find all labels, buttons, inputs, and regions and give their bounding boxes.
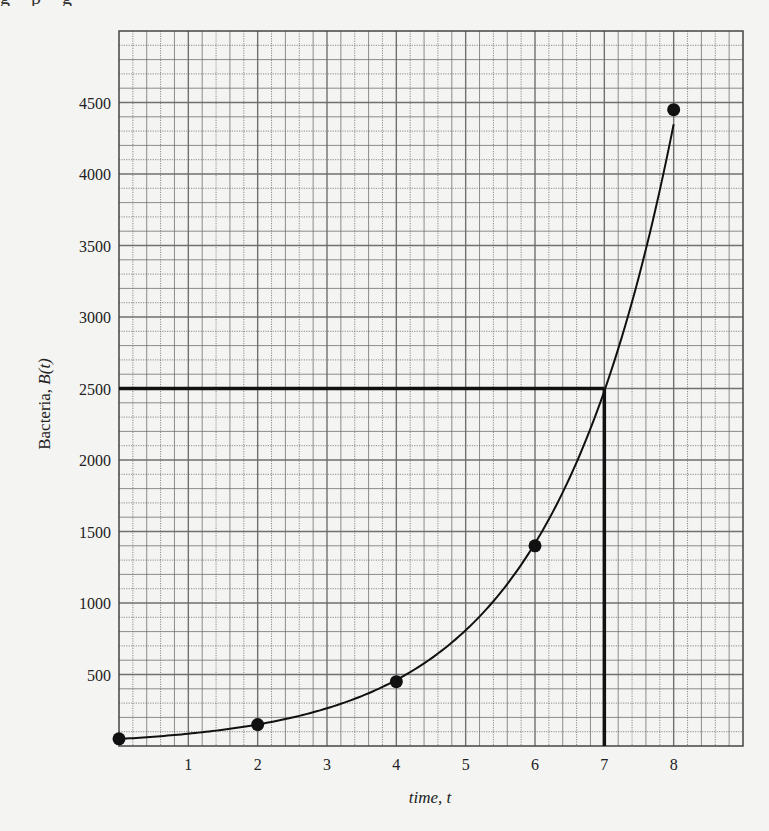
y-tick-label: 1500 xyxy=(79,524,111,541)
reference-lines xyxy=(119,389,604,747)
y-axis-title-text: Bacteria, xyxy=(35,385,54,450)
exponential-growth-chart: 12345678 5001000150020002500300035004000… xyxy=(0,0,769,831)
x-axis-tick-labels: 12345678 xyxy=(184,756,677,773)
x-axis-title: time, t xyxy=(409,788,453,807)
data-point-marker xyxy=(390,675,403,688)
y-tick-label: 1000 xyxy=(79,595,111,612)
x-tick-label: 7 xyxy=(600,756,608,773)
y-tick-label: 500 xyxy=(87,667,111,684)
y-tick-label: 2000 xyxy=(79,452,111,469)
y-tick-label: 4000 xyxy=(79,166,111,183)
data-point-marker xyxy=(113,732,126,745)
y-tick-label: 3000 xyxy=(79,309,111,326)
x-tick-label: 8 xyxy=(670,756,678,773)
data-point-marker xyxy=(251,718,264,731)
data-point-marker xyxy=(529,539,542,552)
y-tick-label: 3500 xyxy=(79,238,111,255)
x-tick-label: 6 xyxy=(531,756,539,773)
x-tick-label: 3 xyxy=(323,756,331,773)
y-axis-title: Bacteria, B(t) xyxy=(35,358,54,450)
data-point-marker xyxy=(667,103,680,116)
x-tick-label: 1 xyxy=(184,756,192,773)
y-tick-label: 2500 xyxy=(79,381,111,398)
x-tick-label: 5 xyxy=(462,756,470,773)
y-axis-tick-labels: 50010001500200025003000350040004500 xyxy=(79,95,111,684)
x-tick-label: 2 xyxy=(254,756,262,773)
y-tick-label: 4500 xyxy=(79,95,111,112)
x-tick-label: 4 xyxy=(392,756,400,773)
y-axis-title-variable: B(t) xyxy=(35,358,54,385)
